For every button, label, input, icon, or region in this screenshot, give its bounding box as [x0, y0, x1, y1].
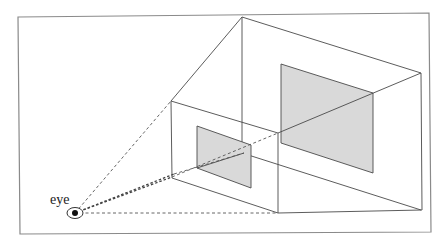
- front-bottom-edge: [278, 210, 422, 213]
- near-top-edge: [171, 101, 278, 133]
- sight-line-top: [75, 101, 171, 213]
- near-bottom-edge: [172, 178, 278, 213]
- eye-label: eye: [50, 192, 69, 207]
- near-plane-panel: [197, 126, 251, 188]
- far-plane-panel: [281, 64, 373, 173]
- near-top-left-connector: [171, 17, 242, 101]
- eye-pupil-icon: [72, 210, 78, 216]
- back-right-vertical-edge: [421, 73, 422, 210]
- perspective-diagram: eye: [0, 0, 448, 243]
- back-bottom-edge: [242, 153, 421, 210]
- sight-line-middle-b: [75, 174, 174, 213]
- near-left-vertical-edge: [171, 101, 172, 178]
- back-top-edge: [242, 17, 421, 73]
